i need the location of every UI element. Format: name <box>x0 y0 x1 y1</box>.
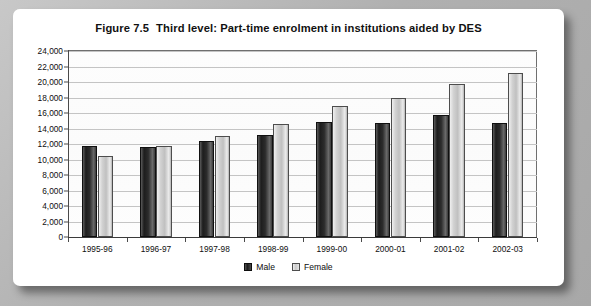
y-tick-mark <box>64 128 68 129</box>
y-tick-label: 22,000 <box>38 62 63 72</box>
figure-card: Figure 7.5Third level: Part-time enrolme… <box>13 9 564 286</box>
bar-female-1999-00 <box>332 106 348 237</box>
gridline <box>68 144 537 145</box>
bar-male-1996-97 <box>140 147 156 237</box>
x-tick-label: 1998-99 <box>258 244 288 254</box>
legend-item-male: Male <box>244 262 275 272</box>
y-tick-mark <box>64 221 68 222</box>
gridline <box>68 160 537 161</box>
y-tick-label: 4,000 <box>42 201 63 211</box>
figure-title-text: Third level: Part-time enrolment in inst… <box>156 22 482 34</box>
x-tick-label: 2001-02 <box>434 244 464 254</box>
y-tick-mark <box>64 159 68 160</box>
y-tick-label: 0 <box>58 232 63 242</box>
x-tick-mark <box>361 238 362 242</box>
y-tick-label: 12,000 <box>38 139 63 149</box>
bar-male-2000-01 <box>375 123 391 237</box>
gridline <box>68 222 537 223</box>
y-tick-label: 20,000 <box>38 77 63 87</box>
gridline <box>68 175 537 176</box>
legend-item-female: Female <box>292 262 333 272</box>
y-tick-label: 14,000 <box>38 124 63 134</box>
bar-male-1995-96 <box>82 146 98 237</box>
legend-swatch-female-icon <box>292 263 300 271</box>
bar-female-2000-01 <box>391 98 407 237</box>
y-tick-mark <box>64 175 68 176</box>
gridline <box>68 98 537 99</box>
gridline <box>68 67 537 68</box>
y-tick-label: 18,000 <box>38 93 63 103</box>
bar-female-2001-02 <box>449 84 465 237</box>
bar-male-1999-00 <box>316 122 332 237</box>
figure-number: Figure 7.5 <box>95 22 149 34</box>
legend-label-male: Male <box>256 262 275 272</box>
x-tick-mark <box>68 238 69 242</box>
x-tick-mark <box>244 238 245 242</box>
legend-swatch-male-icon <box>244 263 252 271</box>
y-tick-mark <box>64 190 68 191</box>
y-tick-mark <box>64 113 68 114</box>
y-tick-mark <box>64 51 68 52</box>
y-tick-mark <box>64 82 68 83</box>
y-axis-line <box>68 50 69 238</box>
y-tick-mark <box>64 66 68 67</box>
bar-male-1998-99 <box>257 135 273 237</box>
x-tick-label: 1995-96 <box>82 244 112 254</box>
x-tick-label: 1997-98 <box>199 244 229 254</box>
y-tick-mark <box>64 97 68 98</box>
chart-plot: 02,0004,0006,0008,00010,00012,00014,0001… <box>68 50 537 238</box>
y-tick-mark <box>64 206 68 207</box>
y-tick-mark <box>64 144 68 145</box>
x-tick-mark <box>537 238 538 242</box>
x-tick-label: 1999-00 <box>317 244 347 254</box>
figure-title: Figure 7.5Third level: Part-time enrolme… <box>13 22 564 34</box>
bar-female-1996-97 <box>156 146 172 237</box>
bar-female-1998-99 <box>273 124 289 237</box>
gridline <box>68 82 537 83</box>
legend-label-female: Female <box>304 262 333 272</box>
y-tick-label: 8,000 <box>42 170 63 180</box>
y-tick-label: 16,000 <box>38 108 63 118</box>
x-tick-label: 2002-03 <box>492 244 522 254</box>
x-tick-mark <box>127 238 128 242</box>
x-tick-label: 1996-97 <box>141 244 171 254</box>
gridline <box>68 113 537 114</box>
chart-legend: Male Female <box>13 262 564 272</box>
gridline <box>68 191 537 192</box>
x-tick-mark <box>303 238 304 242</box>
bar-male-2002-03 <box>492 123 508 237</box>
x-tick-mark <box>478 238 479 242</box>
x-tick-label: 2000-01 <box>375 244 405 254</box>
bar-female-1997-98 <box>215 136 231 237</box>
y-tick-label: 2,000 <box>42 217 63 227</box>
x-tick-mark <box>420 238 421 242</box>
gridline <box>68 206 537 207</box>
screenshot-root: Figure 7.5Third level: Part-time enrolme… <box>0 0 591 306</box>
y-tick-label: 6,000 <box>42 186 63 196</box>
x-tick-mark <box>185 238 186 242</box>
bar-female-2002-03 <box>508 73 524 237</box>
gridline <box>68 129 537 130</box>
bar-female-1995-96 <box>98 156 114 237</box>
y-tick-label: 24,000 <box>38 46 63 56</box>
bar-male-1997-98 <box>199 141 215 237</box>
gridline <box>68 51 537 52</box>
bar-male-2001-02 <box>433 115 449 237</box>
y-tick-label: 10,000 <box>38 155 63 165</box>
